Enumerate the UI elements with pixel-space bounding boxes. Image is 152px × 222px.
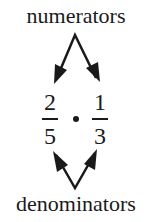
arrow-head-to-second-numerator xyxy=(86,62,100,82)
fraction-2-denominator: 3 xyxy=(90,124,110,148)
denominators-label: denominators xyxy=(0,193,152,215)
multiplication-dot xyxy=(73,116,79,122)
arrows-layer xyxy=(0,0,152,222)
fraction-2-bar xyxy=(92,118,108,120)
numerator-arrows xyxy=(54,35,100,84)
denominator-arrows xyxy=(53,149,97,188)
fraction-2-numerator: 1 xyxy=(90,90,110,114)
fraction-1-bar xyxy=(42,118,58,120)
arrow-head-to-first-denominator xyxy=(53,151,68,172)
fraction-1-denominator: 5 xyxy=(40,124,60,148)
fraction-1-numerator: 2 xyxy=(40,90,60,114)
arrow-head-to-first-numerator xyxy=(54,64,67,84)
